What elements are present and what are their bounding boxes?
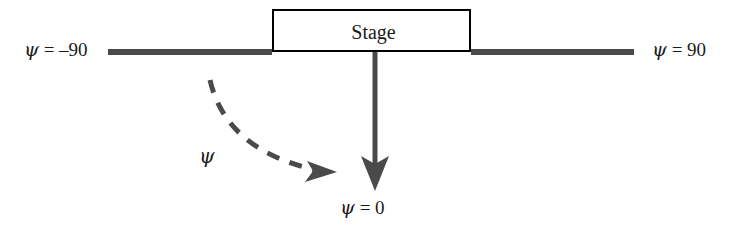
center-arrow	[361, 52, 389, 191]
axis-left-label: ψ = –90	[24, 40, 88, 59]
psi-symbol: ψ	[340, 196, 355, 218]
psi-symbol: ψ	[199, 144, 215, 168]
center-arrow-label-text: = 0	[360, 197, 385, 218]
axis-right-label: ψ = 90	[652, 40, 706, 59]
angle-arrow	[210, 80, 337, 182]
axis-right-label-text: = 90	[672, 39, 706, 60]
axis-left-label-text: = –90	[44, 39, 88, 60]
psi-symbol: ψ	[652, 38, 667, 60]
center-arrow-label: ψ = 0	[340, 198, 385, 217]
stage-label: Stage	[274, 11, 473, 54]
angle-arrow-label: ψ	[199, 146, 215, 166]
angle-arrow-curve	[210, 80, 316, 170]
psi-symbol: ψ	[24, 38, 39, 60]
stage-box: Stage	[272, 9, 471, 52]
stage-azimuth-diagram: Stage ψ = –90 ψ = 90 ψ = 0 ψ	[0, 0, 741, 233]
angle-arrow-head	[305, 161, 337, 182]
